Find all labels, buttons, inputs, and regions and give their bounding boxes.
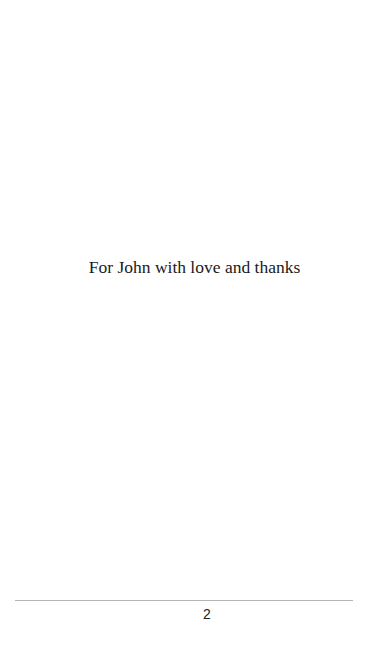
page-number: 2 — [0, 606, 369, 622]
footer-divider — [15, 600, 353, 601]
dedication-text: For John with love and thanks — [0, 257, 369, 278]
